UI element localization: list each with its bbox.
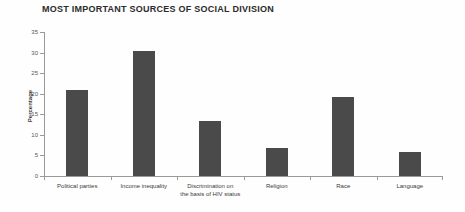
x-tick-mark [244, 176, 245, 180]
y-tick-mark [40, 73, 44, 74]
x-tick-mark [310, 176, 311, 180]
chart-figure: MOST IMPORTANT SOURCES OF SOCIAL DIVISIO… [0, 0, 465, 212]
y-tick-label: 15 [31, 111, 38, 117]
x-axis-category-label: Language [377, 182, 444, 190]
bar [199, 121, 221, 176]
bar [399, 152, 421, 176]
y-tick-label: 10 [31, 132, 38, 138]
y-tick-label: 35 [31, 29, 38, 35]
x-tick-mark [442, 176, 443, 180]
y-tick-mark [40, 135, 44, 136]
bar [266, 148, 288, 176]
bar [133, 51, 155, 176]
x-axis-category-label: Income inequality [111, 182, 178, 190]
y-tick-mark [40, 32, 44, 33]
chart-title: MOST IMPORTANT SOURCES OF SOCIAL DIVISIO… [42, 4, 274, 14]
x-axis-category-label: Discrimination on the basis of HIV statu… [177, 182, 244, 198]
x-axis-category-label: Race [310, 182, 377, 190]
x-tick-mark [44, 176, 45, 180]
y-tick-mark [40, 53, 44, 54]
y-tick-mark [40, 155, 44, 156]
y-tick-label: 25 [31, 70, 38, 76]
bar [332, 97, 354, 176]
x-axis-category-label: Political parties [44, 182, 111, 190]
y-tick-label: 20 [31, 91, 38, 97]
x-tick-mark [177, 176, 178, 180]
x-axis-category-label: Religion [244, 182, 311, 190]
y-tick-mark [40, 114, 44, 115]
bar [66, 90, 88, 176]
y-tick-label: 0 [35, 173, 38, 179]
plot-area: 05101520253035 [44, 32, 443, 176]
y-tick-label: 30 [31, 50, 38, 56]
x-tick-mark [111, 176, 112, 180]
y-axis-line [44, 32, 45, 176]
y-tick-label: 5 [35, 152, 38, 158]
y-tick-mark [40, 94, 44, 95]
x-tick-mark [377, 176, 378, 180]
